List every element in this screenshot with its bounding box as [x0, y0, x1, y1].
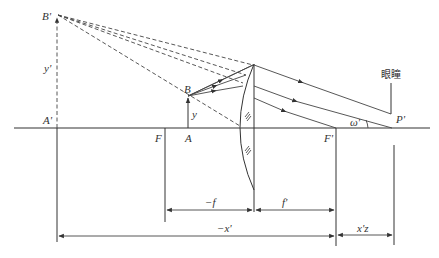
label-eye: 眼瞳 — [381, 68, 401, 80]
label-f: F — [154, 132, 162, 144]
label-a-prime: A' — [42, 114, 53, 126]
label-f-prime: F' — [323, 132, 334, 144]
label-y-prime: y' — [43, 62, 52, 74]
optics-diagram: B' y' A' B y F A F' ω' P' 眼瞳 −f f' −x' x… — [0, 0, 439, 258]
virtual-ray-extensions — [58, 15, 253, 126]
label-p-prime: P' — [395, 113, 406, 125]
emerging-rays — [254, 65, 392, 128]
label-a: A — [184, 132, 192, 144]
label-b: B — [184, 83, 191, 95]
label-minus-f: −f — [205, 196, 217, 208]
label-f-prime-dim: f' — [282, 196, 288, 208]
label-minus-x-prime: −x' — [217, 222, 232, 234]
object-rays — [188, 65, 253, 96]
label-y: y — [191, 108, 197, 120]
lens-hatch — [245, 112, 251, 155]
label-b-prime: B' — [42, 10, 52, 22]
label-x-z-prime: x'z — [356, 222, 369, 234]
label-omega-prime: ω' — [350, 116, 361, 128]
